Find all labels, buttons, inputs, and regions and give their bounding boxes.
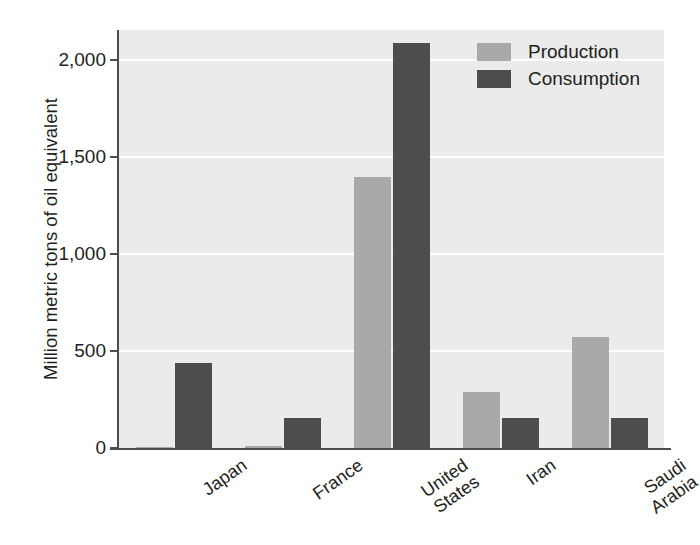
bar-consumption-united-states xyxy=(393,43,430,448)
bar-production-iran xyxy=(463,392,500,448)
bar-consumption-france xyxy=(284,418,321,448)
x-axis-line xyxy=(110,448,671,450)
gridline xyxy=(119,253,664,255)
chart-legend: Production Consumption xyxy=(477,38,677,92)
y-axis-tick-labels: 05001,0001,5002,000 xyxy=(0,0,106,545)
legend-swatch-consumption xyxy=(477,70,511,88)
bar-consumption-japan xyxy=(175,363,212,448)
legend-label-production: Production xyxy=(528,41,619,63)
legend-swatch-production xyxy=(477,43,511,61)
y-axis-line xyxy=(117,30,119,448)
legend-label-consumption: Consumption xyxy=(528,68,640,90)
y-axis-tick-label: 2,000 xyxy=(2,49,106,71)
bar-consumption-iran xyxy=(502,418,539,448)
legend-item-production: Production xyxy=(477,38,677,65)
plot-area xyxy=(119,30,664,448)
x-axis-tick-label: Iran xyxy=(522,455,559,489)
y-axis-tick-mark xyxy=(110,253,119,255)
y-axis-tick-label: 1,500 xyxy=(2,146,106,168)
y-axis-tick-mark xyxy=(110,156,119,158)
legend-item-consumption: Consumption xyxy=(477,65,677,92)
y-axis-tick-label: 0 xyxy=(2,437,106,459)
y-axis-tick-mark xyxy=(110,59,119,61)
bar-production-united-states xyxy=(354,177,391,448)
bar-consumption-saudi-arabia xyxy=(611,418,648,448)
y-axis-tick-label: 500 xyxy=(2,340,106,362)
x-axis-tick-label: France xyxy=(309,455,366,504)
y-axis-tick-mark xyxy=(110,350,119,352)
gridline xyxy=(119,156,664,158)
x-axis-tick-label: United States xyxy=(417,455,483,518)
y-axis-tick-label: 1,000 xyxy=(2,243,106,265)
x-axis-tick-label: Japan xyxy=(198,455,250,500)
x-axis-tick-label: Saudi Arabia xyxy=(635,455,700,518)
bar-production-saudi-arabia xyxy=(572,337,609,448)
y-axis-tick-mark xyxy=(110,447,119,449)
